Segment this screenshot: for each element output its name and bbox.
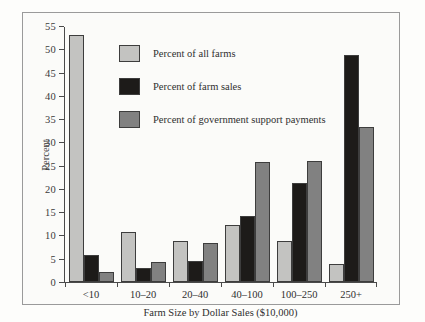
y-axis-tick-label: 15 <box>45 207 56 218</box>
x-axis-tick <box>65 282 66 287</box>
x-axis-tick-label: 250+ <box>340 289 362 300</box>
bar <box>329 264 344 282</box>
bar <box>188 261 203 282</box>
y-axis-tick <box>59 73 64 74</box>
y-axis-tick-label: 20 <box>45 183 56 194</box>
legend-label: Percent of farm sales <box>153 81 241 92</box>
x-axis-tick-label: 20–40 <box>182 289 208 300</box>
y-axis-tick-label: 40 <box>45 90 56 101</box>
y-axis-tick-label: 55 <box>45 21 56 32</box>
y-axis-tick-label: 30 <box>45 137 56 148</box>
chart-legend: Percent of all farmsPercent of farm sale… <box>119 45 326 128</box>
bar <box>344 55 359 282</box>
y-axis-tick <box>59 259 64 260</box>
legend-item: Percent of government support payments <box>119 111 326 128</box>
x-axis-tick-label: 10–20 <box>130 289 156 300</box>
y-axis-tick <box>59 49 64 50</box>
bar <box>121 232 136 282</box>
y-axis-tick <box>59 235 64 236</box>
bar-group: <10 <box>65 27 117 282</box>
y-axis-tick-label: 10 <box>45 230 56 241</box>
y-axis-tick <box>59 166 64 167</box>
bar <box>69 35 84 282</box>
legend-label: Percent of government support payments <box>153 114 326 125</box>
legend-item: Percent of all farms <box>119 45 326 62</box>
legend-item: Percent of farm sales <box>119 78 326 95</box>
x-axis-tick-label: <10 <box>83 289 99 300</box>
bar <box>173 241 188 282</box>
x-axis-tick <box>221 282 222 287</box>
legend-swatch <box>119 78 140 95</box>
bar <box>359 127 374 282</box>
x-axis-tick <box>325 282 326 287</box>
legend-label: Percent of all farms <box>153 48 236 59</box>
figure-panel: Percent 0510152025303540455055 <1010–202… <box>22 12 400 305</box>
y-axis-tick-label: 0 <box>51 277 56 288</box>
y-axis-tick <box>59 189 64 190</box>
bar <box>136 268 151 282</box>
bar <box>225 225 240 282</box>
y-axis-tick <box>59 119 64 120</box>
legend-swatch <box>119 45 140 62</box>
y-axis-tick <box>59 96 64 97</box>
y-axis-tick <box>59 212 64 213</box>
y-axis-tick <box>59 282 64 283</box>
y-axis-tick <box>59 26 64 27</box>
x-axis-tick <box>169 282 170 287</box>
bar <box>277 241 292 282</box>
bar <box>240 216 255 282</box>
x-axis-tick-label: 100–250 <box>281 289 318 300</box>
bar-group: 250+ <box>325 27 377 282</box>
bar <box>255 162 270 282</box>
bar <box>203 243 218 282</box>
bar <box>292 183 307 282</box>
y-axis-tick <box>59 142 64 143</box>
y-axis-tick-label: 50 <box>45 44 56 55</box>
x-axis-title: Farm Size by Dollar Sales ($10,000) <box>64 307 377 318</box>
bar <box>151 262 166 282</box>
y-axis-tick-label: 25 <box>45 160 56 171</box>
legend-swatch <box>119 111 140 128</box>
x-axis-tick-label: 40–100 <box>231 289 263 300</box>
x-axis-tick <box>376 282 377 287</box>
y-axis-tick-label: 35 <box>45 114 56 125</box>
y-axis-tick-label: 5 <box>51 253 56 264</box>
x-axis-tick <box>273 282 274 287</box>
x-axis-tick <box>117 282 118 287</box>
bar <box>84 255 99 282</box>
y-axis-tick-label: 45 <box>45 67 56 78</box>
bar <box>99 272 114 282</box>
bar <box>307 161 322 282</box>
